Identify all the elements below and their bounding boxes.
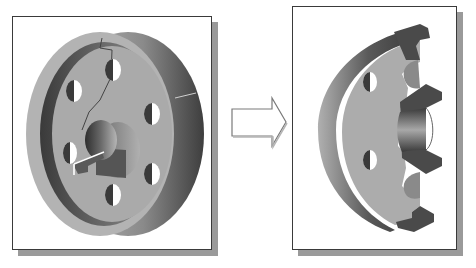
bore-edge	[426, 108, 433, 150]
section-bore	[397, 108, 426, 152]
cut-notch-lower	[404, 172, 420, 199]
flange-part	[26, 32, 204, 236]
arrow-right-icon	[232, 98, 287, 147]
diagram-canvas	[0, 0, 476, 268]
section-view-part	[318, 24, 442, 232]
